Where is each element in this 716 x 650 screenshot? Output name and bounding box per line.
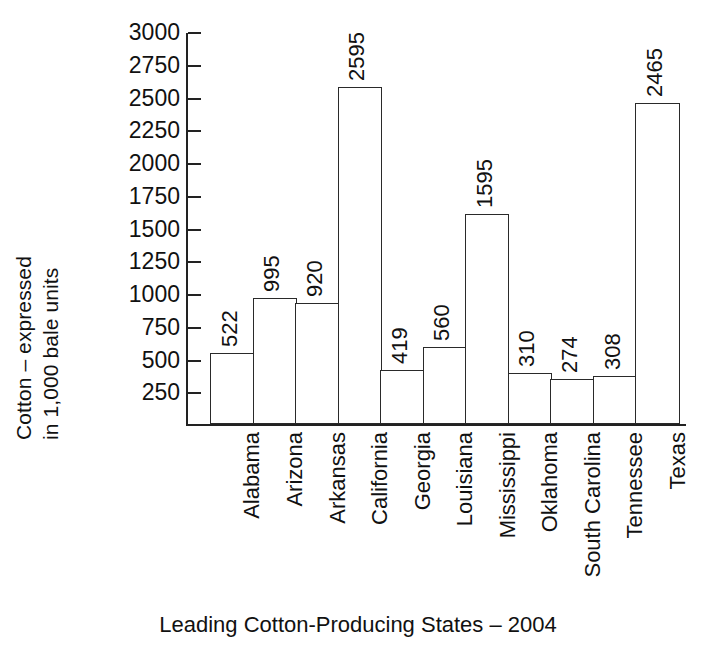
y-axis-tick-mark: [188, 360, 201, 362]
x-axis-category-label: Alabama: [241, 432, 263, 519]
bar-value-label: 920: [304, 261, 326, 298]
y-axis-tick-mark: [188, 196, 201, 198]
bar-value-label: 274: [559, 337, 581, 374]
bar-value-label: 522: [219, 311, 241, 348]
y-axis-tick-mark: [188, 98, 201, 100]
x-axis-category-label: Mississippi: [497, 432, 519, 538]
bar: [210, 353, 254, 424]
bar-chart-figure: Cotton – expressed in 1,000 bale units 2…: [0, 0, 716, 650]
x-axis-category-label: Arkansas: [327, 432, 349, 524]
bar: [338, 87, 382, 424]
y-axis-tick-label: 750: [96, 316, 180, 339]
y-axis-tick-label: 2000: [96, 152, 180, 175]
bar-value-label: 995: [261, 256, 283, 293]
x-axis-category-label: Louisiana: [454, 432, 476, 526]
x-axis-category-label: Oklahoma: [539, 432, 561, 532]
bar-series: 522995920259541956015953102743082465: [210, 33, 678, 424]
x-axis-category-label: Arizona: [284, 432, 306, 507]
y-axis-tick-label: 250: [96, 381, 180, 404]
y-axis-tick-mark: [188, 163, 201, 165]
x-axis-title: Leading Cotton-Producing States – 2004: [0, 612, 716, 638]
bar-value-label: 2595: [346, 32, 368, 81]
x-axis-category-label: Georgia: [412, 432, 434, 510]
y-axis-tick-mark: [188, 392, 201, 394]
bar: [423, 347, 467, 424]
x-axis-category-label: Tennessee: [624, 432, 646, 538]
bar: [635, 103, 679, 424]
y-axis-tick-label: 2500: [96, 87, 180, 110]
x-axis-category-labels: AlabamaArizonaArkansasCaliforniaGeorgiaL…: [210, 432, 690, 602]
bar: [593, 376, 637, 424]
y-axis-tick-label: 2250: [96, 119, 180, 142]
y-axis-tick-label: 1250: [96, 250, 180, 273]
y-axis-tick-mark: [188, 327, 201, 329]
y-axis-title-line-2: in 1,000 bale units: [39, 268, 63, 440]
y-axis-tick-mark: [188, 261, 201, 263]
bar: [550, 379, 594, 424]
y-axis-title-line-1: Cotton – expressed: [12, 256, 36, 440]
y-axis-tick-mark: [188, 130, 201, 132]
y-axis-tick-labels: 2505007501000125015001750200022502500275…: [96, 0, 180, 650]
y-axis-tick-label: 3000: [96, 21, 180, 44]
y-axis-tick-mark: [188, 32, 201, 34]
y-axis-tick-mark: [188, 229, 201, 231]
bar: [465, 214, 509, 424]
x-axis-category-label: California: [369, 432, 391, 525]
bar-value-label: 310: [516, 330, 538, 367]
y-axis-tick-mark: [188, 65, 201, 67]
bar-value-label: 560: [431, 304, 453, 341]
bar-value-label: 419: [389, 327, 411, 364]
y-axis-tick-label: 2750: [96, 54, 180, 77]
bar: [380, 370, 424, 424]
x-axis-category-label: Texas: [667, 432, 689, 489]
bar: [253, 298, 297, 424]
x-axis-line: [186, 424, 686, 426]
bar-value-label: 2465: [644, 48, 666, 97]
y-axis-tick-label: 1500: [96, 218, 180, 241]
x-axis-category-label: South Carolina: [582, 432, 604, 578]
bar: [295, 303, 339, 424]
y-axis-tick-label: 1000: [96, 283, 180, 306]
plot-area: 522995920259541956015953102743082465: [186, 33, 686, 426]
bar-value-label: 308: [602, 333, 624, 370]
bar-value-label: 1595: [474, 159, 496, 208]
y-axis-tick-label: 1750: [96, 185, 180, 208]
y-axis-tick-label: 500: [96, 349, 180, 372]
bar: [508, 373, 552, 424]
y-axis-title: Cotton – expressed in 1,000 bale units: [8, 80, 98, 440]
y-axis-tick-mark: [188, 294, 201, 296]
